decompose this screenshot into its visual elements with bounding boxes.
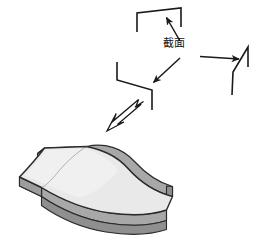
diagram-svg	[0, 0, 262, 243]
figure-canvas: 截面	[0, 0, 262, 243]
cross-section-label: 截面	[163, 37, 185, 50]
arrow-group	[107, 18, 239, 132]
transfer-arrow-right	[200, 57, 239, 60]
top-profile-polyline	[137, 8, 181, 32]
right-profile-polyline	[232, 47, 248, 95]
leader-arrow-middle	[154, 58, 181, 83]
swept-surface	[20, 145, 173, 234]
sweep-arrow	[107, 99, 144, 131]
